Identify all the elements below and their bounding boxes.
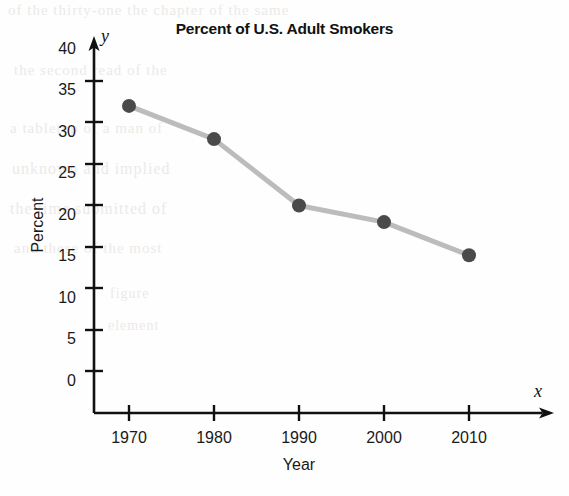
y-axis-title: Percent [29,180,47,270]
chart-figure: of the thirty-one the chapter of the sam… [0,0,569,496]
y-tick-label-40: 40 [36,40,76,58]
y-axis-variable-letter: y [101,26,109,47]
x-tick-label-1980: 1980 [184,429,244,447]
chart-plot-area [0,0,569,496]
x-axis [94,405,554,421]
x-tick-label-2000: 2000 [354,429,414,447]
x-tick-label-2010: 2010 [439,429,499,447]
data-point-2000 [377,215,391,229]
data-point-1980 [207,132,221,146]
y-tick-label-10: 10 [36,289,76,307]
y-tick-label-5: 5 [36,330,76,348]
x-axis-title: Year [269,456,329,474]
x-tick-label-1970: 1970 [99,429,159,447]
y-tick-label-35: 35 [36,81,76,99]
y-tick-label-0: 0 [36,372,76,390]
y-tick-label-30: 30 [36,123,76,141]
x-axis-variable-letter: x [534,381,542,402]
x-tick-label-1990: 1990 [269,429,329,447]
data-point-1990 [292,199,306,213]
data-series-line [129,106,469,255]
data-point-2010 [462,248,476,262]
y-axis [85,36,103,413]
data-point-1970 [122,99,136,113]
